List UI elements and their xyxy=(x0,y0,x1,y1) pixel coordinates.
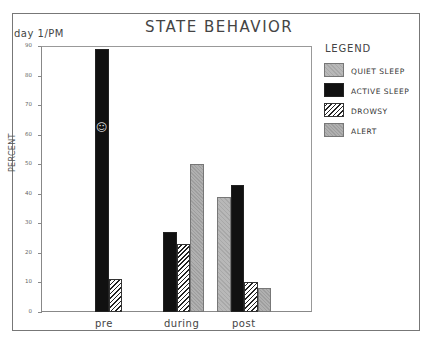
x-label-during: during xyxy=(164,318,199,329)
x-label-post: post xyxy=(232,318,256,329)
annotation-symbol-icon: ☺ xyxy=(95,121,108,135)
y-tick: 80 xyxy=(0,76,40,86)
bar-post-drowsy xyxy=(244,282,258,312)
bar-pre-drowsy xyxy=(109,279,123,312)
legend-swatch-active-sleep xyxy=(324,83,344,97)
y-tick-label: 80 xyxy=(25,72,32,78)
bar-during-drowsy xyxy=(177,244,191,312)
legend-swatch-alert xyxy=(324,123,344,137)
bar-post-alert xyxy=(258,288,272,312)
y-tick: 20 xyxy=(0,253,40,263)
y-tick: 60 xyxy=(0,135,40,145)
y-tick: 30 xyxy=(0,223,40,233)
y-tick-mark xyxy=(38,312,42,313)
y-tick: 10 xyxy=(0,282,40,292)
y-tick: 90 xyxy=(0,46,40,56)
y-tick-label: 10 xyxy=(25,278,32,284)
bar-during-alert xyxy=(190,164,204,312)
y-tick: 50 xyxy=(0,164,40,174)
bar-post-quiet xyxy=(217,197,231,312)
legend-label: ALERT xyxy=(351,127,377,136)
bar-post-active xyxy=(231,185,245,312)
legend-swatch-drowsy xyxy=(324,103,344,117)
bar-during-active xyxy=(163,232,177,312)
y-tick-label: 50 xyxy=(25,160,32,166)
legend-label: QUIET SLEEP xyxy=(351,67,405,76)
y-tick: 70 xyxy=(0,105,40,115)
y-tick-label: 70 xyxy=(25,101,32,107)
y-tick-label: 60 xyxy=(25,131,32,137)
y-tick: 40 xyxy=(0,194,40,204)
y-tick-label: 30 xyxy=(25,219,32,225)
x-label-pre: pre xyxy=(95,318,113,329)
bar-pre-active xyxy=(95,49,109,312)
y-tick-label: 20 xyxy=(25,249,32,255)
y-tick-label: 40 xyxy=(25,190,32,196)
legend-label: ACTIVE SLEEP xyxy=(351,87,409,96)
y-tick-label: 90 xyxy=(25,42,32,48)
chart-subtitle: day 1/PM xyxy=(14,28,64,39)
legend-label: DROWSY xyxy=(351,107,388,116)
legend-swatch-quiet-sleep xyxy=(324,63,344,77)
chart-title: STATE BEHAVIOR xyxy=(145,18,293,36)
y-tick-label: 0 xyxy=(29,308,33,314)
legend-title: LEGEND xyxy=(325,43,371,54)
y-tick: 0 xyxy=(0,312,40,322)
